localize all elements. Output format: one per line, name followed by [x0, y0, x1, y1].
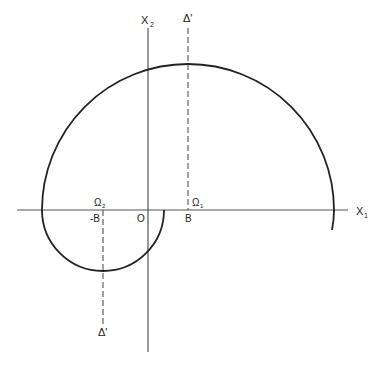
x1-axis-label: X 1: [356, 205, 368, 219]
svg-text:X: X: [141, 14, 149, 26]
neg-b-label: -B: [90, 213, 100, 224]
origin-label: O: [137, 213, 145, 224]
svg-text:Ω: Ω: [192, 197, 200, 208]
delta-bottom-label: Δ': [98, 326, 107, 338]
omega2-label: Ω 2: [94, 197, 106, 209]
svg-text:X: X: [356, 205, 364, 217]
arc-tail: [332, 210, 334, 230]
svg-text:1: 1: [364, 212, 368, 219]
delta-top-label: Δ': [183, 12, 192, 24]
x2-axis-label: X 2: [141, 14, 154, 28]
svg-text:Ω: Ω: [94, 197, 102, 208]
omega1-label: Ω 1: [192, 197, 204, 209]
svg-text:1: 1: [200, 203, 204, 209]
b-label: B: [185, 213, 192, 224]
svg-text:2: 2: [102, 203, 106, 209]
svg-text:2: 2: [150, 21, 154, 28]
spiral-diagram: X 2 X 1 Δ' Δ' O B -B Ω 1 Ω 2: [0, 0, 377, 365]
